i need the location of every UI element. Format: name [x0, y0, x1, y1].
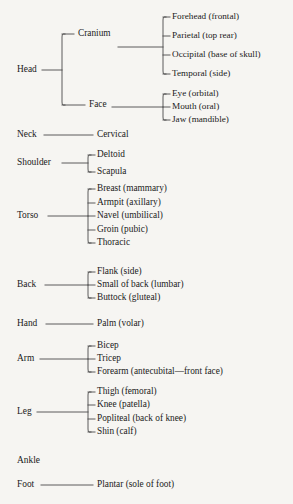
node-label-scapula: Scapula	[97, 166, 126, 176]
node-label-breast: Breast (mammary)	[97, 183, 167, 194]
node-label-armpit: Armpit (axillary)	[97, 197, 161, 208]
node-label-head: Head	[17, 64, 37, 74]
node-label-buttock: Buttock (gluteal)	[97, 292, 160, 303]
node-label-forehead: Forehead (frontal)	[172, 11, 239, 21]
node-label-thigh: Thigh (femoral)	[97, 386, 157, 397]
node-label-flank: Flank (side)	[97, 266, 142, 277]
diagram-page: { "diagram": { "title": "Anatomical Regi…	[0, 0, 293, 504]
node-label-groin: Groin (pubic)	[97, 224, 148, 235]
node-label-lumbar: Small of back (lumbar)	[97, 279, 184, 290]
node-label-palm: Palm (volar)	[97, 318, 144, 329]
node-label-arm: Arm	[17, 353, 35, 363]
node-label-popliteal: Popliteal (back of knee)	[97, 413, 186, 424]
node-label-cranium: Cranium	[78, 28, 111, 38]
bracket-cranium	[163, 17, 166, 74]
node-label-plantar: Plantar (sole of foot)	[97, 479, 174, 490]
node-label-shoulder: Shoulder	[17, 157, 52, 167]
node-label-foot: Foot	[17, 479, 35, 489]
node-label-bicep: Bicep	[97, 340, 119, 350]
node-label-deltoid: Deltoid	[97, 149, 125, 159]
node-label-shin: Shin (calf)	[97, 426, 137, 437]
node-label-back: Back	[17, 279, 37, 289]
node-label-knee: Knee (patella)	[97, 399, 150, 410]
node-label-mouth: Mouth (oral)	[172, 101, 219, 111]
node-label-torso: Torso	[17, 210, 39, 220]
node-label-eye: Eye (orbital)	[172, 88, 219, 98]
anatomical-regions-tree: HeadCraniumForehead (frontal)Parietal (t…	[0, 0, 293, 504]
node-label-temporal: Temporal (side)	[172, 68, 230, 78]
node-label-face: Face	[89, 99, 107, 109]
node-label-hand: Hand	[17, 318, 38, 328]
node-label-jaw: Jaw (mandible)	[172, 114, 229, 124]
node-label-leg: Leg	[17, 406, 32, 416]
node-label-cervical: Cervical	[97, 129, 129, 139]
node-label-tricep: Tricep	[97, 353, 121, 363]
node-label-neck: Neck	[17, 129, 37, 139]
node-label-navel: Navel (umbilical)	[97, 210, 163, 221]
node-label-forearm: Forearm (antecubital—front face)	[97, 366, 223, 377]
node-label-occipital: Occipital (base of skull)	[172, 49, 261, 59]
node-label-parietal: Parietal (top rear)	[172, 30, 237, 40]
bracket-shoulder	[88, 155, 91, 172]
node-label-ankle: Ankle	[17, 455, 40, 465]
node-labels-layer: HeadCraniumForehead (frontal)Parietal (t…	[17, 11, 261, 490]
node-label-thoracic: Thoracic	[97, 237, 130, 247]
bracket-head	[62, 34, 65, 105]
